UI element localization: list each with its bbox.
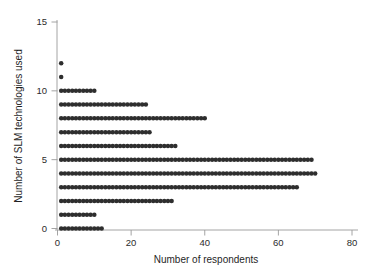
data-point [313,171,318,176]
data-point [203,116,208,121]
x-axis-title: Number of respondents [154,254,259,265]
y-axis-ticks: 051015 [36,16,57,234]
data-point [169,199,174,204]
data-point [99,226,104,231]
chart-canvas: 051015 020406080 Number of respondents N… [0,0,377,274]
x-tick-label: 20 [126,237,137,248]
y-tick-label: 0 [42,223,47,234]
data-point-group [59,61,318,231]
y-axis-title: Number of SLM technologies used [13,49,24,202]
data-point [309,157,314,162]
y-tick-label: 10 [36,85,47,96]
x-tick-label: 0 [55,237,60,248]
data-point [147,130,152,135]
data-point [144,102,149,107]
x-tick-label: 80 [347,237,358,248]
x-tick-label: 60 [273,237,284,248]
data-point [295,185,300,190]
data-point [59,75,64,80]
data-point [92,89,97,94]
data-point [92,212,97,217]
x-tick-label: 40 [199,237,210,248]
x-axis-ticks: 020406080 [55,230,357,248]
y-tick-label: 15 [36,16,47,27]
y-tick-label: 5 [42,154,47,165]
scatter-chart: 051015 020406080 Number of respondents N… [0,0,377,274]
data-point [59,61,64,66]
data-point [173,144,178,149]
